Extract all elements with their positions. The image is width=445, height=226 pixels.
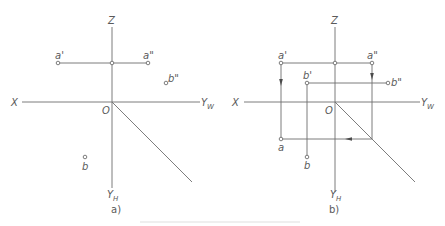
origin-label-a: O xyxy=(102,105,110,116)
point-z-intersect-b xyxy=(333,61,337,65)
point-a-top-b xyxy=(279,137,283,141)
label-a-front-a: a' xyxy=(55,50,64,61)
arrow-down-a-side-icon xyxy=(370,73,374,80)
label-b-side-a: b" xyxy=(168,73,179,84)
point-b-top-b xyxy=(305,155,309,159)
label-b-front-b: b' xyxy=(303,70,312,81)
yh-label-a: YH xyxy=(107,189,119,203)
point-b-front-b xyxy=(305,81,309,85)
diagonal-45-b xyxy=(335,102,415,182)
label-b-side-b: b" xyxy=(391,77,402,88)
label-a-top-b: a xyxy=(278,142,284,153)
label-b-top-a: b xyxy=(82,161,88,172)
z-label-b: Z xyxy=(330,15,339,26)
point-b-top-a xyxy=(83,155,87,159)
point-a-front-a xyxy=(56,61,60,65)
point-a-front-b xyxy=(279,61,283,65)
panel-a xyxy=(22,27,200,188)
x-label-b: X xyxy=(231,97,240,108)
orthographic-projection-diagram: Z X YW O YH a' a" b" b a) xyxy=(0,0,445,226)
panel-a-labels: Z X YW O YH a' a" b" b a) xyxy=(10,15,215,215)
yw-label-a: YW xyxy=(201,97,215,111)
origin-label-b: O xyxy=(325,105,333,116)
arrow-left-a-top-icon xyxy=(345,137,352,141)
z-label-a: Z xyxy=(107,15,116,26)
panel-a-sublabel: a) xyxy=(111,204,121,215)
diagonal-45-a xyxy=(112,102,192,182)
yh-label-b: YH xyxy=(330,189,342,203)
point-z-intersect-a xyxy=(110,61,114,65)
panel-b-labels: Z X YW O YH a' a" b' b" a b b) xyxy=(231,15,435,215)
point-b-side-b xyxy=(386,81,390,85)
arrow-down-a-front-icon xyxy=(279,79,283,86)
label-a-side-a: a" xyxy=(143,50,154,61)
label-b-top-b: b xyxy=(304,160,310,171)
panel-b-sublabel: b) xyxy=(329,204,339,215)
label-a-front-b: a' xyxy=(278,50,287,61)
point-a-side-b xyxy=(370,61,374,65)
faint-caption-strip xyxy=(140,221,300,223)
point-a-side-a xyxy=(146,61,150,65)
label-a-side-b: a" xyxy=(367,50,378,61)
yw-label-b: YW xyxy=(421,97,435,111)
x-label-a: X xyxy=(10,97,19,108)
